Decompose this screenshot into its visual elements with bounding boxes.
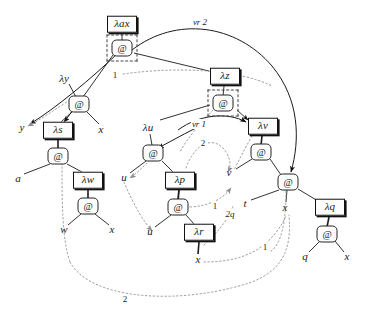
- binder-label-lam-u: λu: [143, 121, 153, 133]
- edge-appy-x1: [87, 112, 99, 124]
- app-node-u[interactable]: @: [143, 145, 164, 162]
- lambda-node-lam-w[interactable]: λw: [73, 172, 103, 189]
- edge-label-2-bottom: 2: [122, 294, 129, 304]
- edge-appq-x5: [335, 241, 344, 252]
- edge-into-appu: [158, 128, 196, 148]
- dotted-1-top: [123, 70, 272, 86]
- lambda-node-lam-v[interactable]: λv: [248, 118, 278, 135]
- dotted-apps-down: [62, 163, 70, 262]
- edge-vr1-arc: [178, 116, 246, 130]
- edge-root-to-y: [30, 53, 118, 124]
- leaf-var-a: a: [15, 172, 21, 184]
- leaf-var-x-4: x: [283, 201, 288, 213]
- leaf-var-x-3: x: [196, 253, 201, 265]
- lambda-node-lam-ax[interactable]: λax: [107, 16, 137, 33]
- edge-lamu-appu: [150, 134, 152, 145]
- edge-approot-lamz: [134, 53, 209, 71]
- edge-apps-a: [24, 164, 50, 174]
- leaf-var-v: v: [227, 166, 232, 178]
- leaf-var-w: w: [60, 223, 67, 235]
- lambda-node-lam-z[interactable]: λz: [210, 68, 240, 85]
- app-node-w[interactable]: @: [78, 198, 99, 215]
- dotted-u1: [130, 160, 150, 178]
- dotted-scope-edges: [28, 70, 290, 296]
- edge-appp-lamr: [186, 215, 194, 224]
- app-node-z[interactable]: @: [213, 95, 234, 112]
- edge-label-vr-2: vr 2: [192, 17, 208, 27]
- edge-appv-appmid: [270, 159, 281, 175]
- dotted-2-bottom: [70, 215, 290, 296]
- edge-appw-w: [68, 214, 81, 225]
- leaf-var-u-2: u: [147, 225, 153, 237]
- edge-appp-u2: [155, 215, 171, 227]
- edge-appq-q: [309, 241, 320, 252]
- leaf-var-x-2: x: [110, 223, 115, 235]
- app-node-s[interactable]: @: [48, 148, 69, 165]
- leaf-var-t: t: [243, 197, 246, 209]
- lambda-node-lam-s[interactable]: λs: [43, 122, 73, 139]
- leaf-var-y: y: [20, 121, 25, 133]
- binder-label-lam-y: λy: [59, 72, 69, 84]
- dotted-1-mid: [190, 188, 231, 207]
- edge-appu-lamp: [162, 161, 173, 172]
- app-node-y[interactable]: @: [69, 96, 90, 113]
- diagram-canvas: λax @ λy @ y x λs @ a λw @ w x λz @ λu @…: [0, 0, 366, 316]
- leaf-var-q: q: [302, 250, 308, 262]
- dotted-u2: [124, 182, 152, 231]
- edge-label-1-mid: 1: [212, 201, 219, 211]
- leaf-var-x-5: x: [345, 250, 350, 262]
- leaf-var-x-1: x: [99, 123, 104, 135]
- app-node-v[interactable]: @: [251, 144, 272, 161]
- app-node-q[interactable]: @: [317, 226, 338, 243]
- lambda-node-lam-q[interactable]: λq: [315, 199, 345, 216]
- app-node-mid[interactable]: @: [278, 174, 299, 191]
- lambda-node-lam-r[interactable]: λr: [184, 224, 214, 241]
- edge-label-1-top: 1: [112, 70, 119, 80]
- edge-label-2q: 2q: [225, 209, 236, 219]
- leaf-var-u-1: u: [121, 171, 127, 183]
- dotted-1-right: [204, 216, 286, 262]
- edge-label-vr-1: vr 1: [191, 119, 207, 129]
- dotted-2-mid: [186, 143, 230, 172]
- lambda-node-lam-p[interactable]: λp: [165, 172, 195, 189]
- app-node-root[interactable]: @: [112, 40, 133, 57]
- edge-appw-x2: [95, 214, 109, 225]
- edge-label-2-mid: 2: [200, 138, 207, 148]
- app-node-p[interactable]: @: [168, 199, 189, 216]
- edge-appmid-t: [251, 190, 279, 200]
- edge-label-1-right: 1: [262, 242, 269, 252]
